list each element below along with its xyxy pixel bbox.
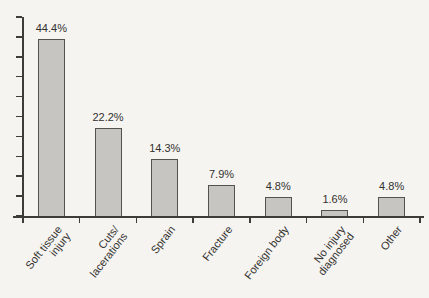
bar-value-label: 4.8%	[360, 180, 424, 192]
x-tick	[192, 218, 194, 223]
bar-2	[95, 128, 122, 216]
bar-7	[378, 197, 405, 216]
x-tick	[363, 218, 365, 223]
x-tick	[79, 218, 81, 223]
x-tick	[136, 218, 138, 223]
bar-6	[321, 210, 348, 216]
y-tick	[16, 195, 22, 197]
y-axis-line	[22, 17, 24, 218]
category-label: Sprain	[149, 224, 177, 256]
category-label: Other	[379, 224, 405, 252]
category-label: No injury diagnosed	[308, 224, 357, 278]
bar-value-label: 14.3%	[133, 142, 197, 154]
y-tick	[16, 215, 22, 217]
bar-value-label: 4.8%	[246, 180, 310, 192]
x-tick	[22, 218, 24, 223]
y-tick	[16, 16, 22, 18]
category-label: Foreign body	[243, 224, 291, 281]
bar-4	[208, 185, 235, 216]
bar-3	[151, 159, 178, 216]
y-tick	[16, 136, 22, 138]
y-tick	[16, 36, 22, 38]
y-tick	[16, 56, 22, 58]
bar-value-label: 22.2%	[76, 111, 140, 123]
y-tick	[16, 175, 22, 177]
category-label: Soft tissue injury	[24, 224, 73, 278]
bar-value-label: 7.9%	[190, 168, 254, 180]
category-label: Cuts/ lacerations	[79, 224, 129, 279]
category-label: Fracture	[200, 224, 234, 263]
bar-1	[38, 39, 65, 216]
y-tick	[16, 76, 22, 78]
y-tick	[16, 156, 22, 158]
bar-5	[265, 197, 292, 216]
bar-value-label: 1.6%	[303, 193, 367, 205]
x-tick	[249, 218, 251, 223]
x-tick	[419, 218, 421, 223]
bar-value-label: 44.4%	[19, 22, 83, 34]
x-tick	[306, 218, 308, 223]
bar-chart-figure: 44.4%22.2%14.3%7.9%4.8%1.6%4.8% Soft tis…	[0, 0, 429, 298]
y-tick	[16, 96, 22, 98]
y-tick	[16, 116, 22, 118]
